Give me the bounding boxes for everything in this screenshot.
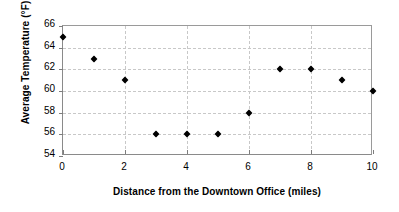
x-tick-mark [249, 150, 250, 154]
y-tick-mark [59, 113, 63, 114]
gridline-horizontal [63, 113, 371, 114]
x-tick-label: 4 [166, 161, 206, 172]
y-tick-label: 66 [44, 18, 55, 29]
y-tick-label: 64 [44, 40, 55, 51]
gridline-vertical [249, 26, 250, 154]
y-axis-title: Average Temperature (°F) [20, 0, 31, 143]
data-point [245, 109, 252, 116]
x-tick-label: 0 [42, 161, 82, 172]
x-axis-title: Distance from the Downtown Office (miles… [62, 186, 372, 197]
data-point [338, 77, 345, 84]
y-tick-label: 62 [44, 61, 55, 72]
x-tick-label: 8 [290, 161, 330, 172]
scatter-chart-figure: Average Temperature (°F) 54565860626466 … [0, 0, 399, 212]
y-tick-label: 54 [44, 148, 55, 159]
y-tick-label: 58 [44, 105, 55, 116]
data-point [369, 87, 376, 94]
y-tick-label: 60 [44, 83, 55, 94]
x-tick-mark [373, 150, 374, 154]
gridline-horizontal [63, 48, 371, 49]
data-point [214, 131, 221, 138]
y-tick-mark [59, 26, 63, 27]
x-tick-label: 10 [352, 161, 392, 172]
x-tick-label: 6 [228, 161, 268, 172]
gridline-horizontal [63, 91, 371, 92]
gridline-vertical [311, 26, 312, 154]
data-point [152, 131, 159, 138]
data-point [59, 33, 66, 40]
gridline-vertical [125, 26, 126, 154]
x-tick-mark [63, 150, 64, 154]
y-tick-mark [59, 48, 63, 49]
x-tick-mark [311, 150, 312, 154]
data-point [307, 66, 314, 73]
y-tick-mark [59, 156, 63, 157]
data-point [183, 131, 190, 138]
x-tick-mark [125, 150, 126, 154]
x-tick-mark [187, 150, 188, 154]
y-tick-mark [59, 134, 63, 135]
y-tick-mark [59, 69, 63, 70]
x-tick-label: 2 [104, 161, 144, 172]
data-point [276, 66, 283, 73]
y-tick-label: 56 [44, 126, 55, 137]
plot-area [62, 25, 372, 155]
data-point [90, 55, 97, 62]
gridline-horizontal [63, 69, 371, 70]
data-point [121, 77, 128, 84]
y-tick-mark [59, 91, 63, 92]
